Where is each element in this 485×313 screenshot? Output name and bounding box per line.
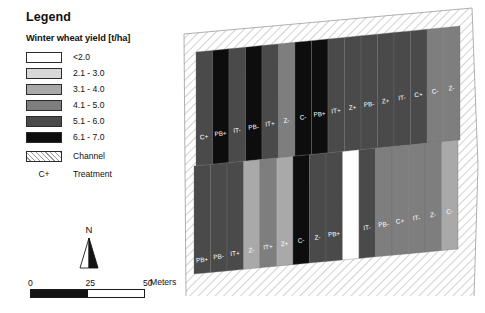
legend-label-5: 6.1 - 7.0 xyxy=(73,132,105,142)
legend-item-class-0: <2.0 xyxy=(26,50,186,64)
legend-swatch-5 xyxy=(26,132,62,143)
legend-item-class-3: 4.1 - 5.0 xyxy=(26,98,186,112)
legend-label-3: 4.1 - 5.0 xyxy=(73,100,105,110)
legend-label-1: 2.1 - 3.0 xyxy=(73,68,105,78)
bottom-row-label-13: IT- xyxy=(412,214,420,222)
top-row-label-9: Z+ xyxy=(348,103,357,111)
bottom-row-label-3: Z- xyxy=(248,246,255,254)
top-row-label-15: Z- xyxy=(448,84,455,92)
legend-swatch-2 xyxy=(26,84,62,95)
legend-title: Legend xyxy=(26,10,186,24)
top-row-label-7: PB+ xyxy=(313,110,326,118)
top-row-plot-3[interactable] xyxy=(246,46,263,162)
map-svg[interactable]: C+PB+IT-PB-IT+Z-C-PB+IT+Z+PB-Z+IT-C+C-Z-… xyxy=(182,6,482,296)
legend-class-list: <2.02.1 - 3.03.1 - 4.04.1 - 5.05.1 - 6.0… xyxy=(26,50,186,144)
top-row-plot-5[interactable] xyxy=(279,42,296,158)
top-row-plot-1[interactable] xyxy=(213,49,230,165)
bottom-row-label-7: Z- xyxy=(314,233,321,241)
top-row-label-6: C- xyxy=(299,113,306,121)
bottom-row-plot-9[interactable] xyxy=(343,150,360,260)
bottom-row-label-15: C- xyxy=(446,207,453,215)
bottom-row-plot-12[interactable] xyxy=(392,145,409,255)
bottom-row-label-6: C- xyxy=(297,236,304,244)
top-row-label-13: C+ xyxy=(414,90,423,98)
top-row-label-5: Z- xyxy=(283,117,290,125)
top-row-plot-8[interactable] xyxy=(328,37,345,153)
top-row-label-10: PB- xyxy=(363,100,374,108)
legend-label-0: <2.0 xyxy=(73,52,90,62)
top-row-plot-14[interactable] xyxy=(427,28,444,144)
bottom-row-plot-8[interactable] xyxy=(326,151,343,261)
top-row-plot-6[interactable] xyxy=(295,41,312,157)
scale-bar: 02550 Meters xyxy=(30,278,180,298)
legend-item-channel: Channel xyxy=(26,149,186,163)
top-row-plot-9[interactable] xyxy=(345,36,362,152)
bottom-row-label-10: IT- xyxy=(363,223,371,231)
north-arrow-label: N xyxy=(72,224,106,235)
legend-swatch-4 xyxy=(26,116,62,127)
legend-item-treatment: C+ Treatment xyxy=(26,169,186,179)
channel-hatch-swatch xyxy=(26,151,62,162)
map-figure: Legend Winter wheat yield [t/ha] <2.02.1… xyxy=(0,0,485,313)
scale-bar-units: Meters xyxy=(150,277,176,287)
top-row-label-11: Z+ xyxy=(381,97,390,105)
top-row-plot-7[interactable] xyxy=(312,39,329,155)
scale-tick-25: 25 xyxy=(86,278,96,288)
top-row-label-4: IT+ xyxy=(265,120,275,128)
legend-label-2: 3.1 - 4.0 xyxy=(73,84,105,94)
bottom-row-label-8: PB+ xyxy=(328,230,341,238)
top-row-label-2: IT- xyxy=(233,126,241,134)
legend-item-channel-label: Channel xyxy=(73,151,105,161)
bottom-row-label-9: C+ xyxy=(346,227,355,235)
legend-subtitle: Winter wheat yield [t/ha] xyxy=(26,33,186,43)
top-row-plot-12[interactable] xyxy=(394,31,411,147)
bottom-row-label-14: Z- xyxy=(430,211,437,219)
bottom-row-plot-5[interactable] xyxy=(277,156,294,266)
scale-tick-0: 0 xyxy=(28,278,33,288)
top-row-plot-11[interactable] xyxy=(378,33,395,149)
legend-panel: Legend Winter wheat yield [t/ha] <2.02.1… xyxy=(26,10,186,179)
top-row-label-0: C+ xyxy=(200,133,209,141)
scale-bar-track xyxy=(30,289,145,298)
bottom-row-plot-14[interactable] xyxy=(425,142,442,253)
top-row-plot-13[interactable] xyxy=(411,29,428,145)
top-row-plot-2[interactable] xyxy=(229,47,246,163)
bottom-row-plot-11[interactable] xyxy=(376,147,393,257)
legend-item-class-4: 5.1 - 6.0 xyxy=(26,114,186,128)
top-row-label-12: IT- xyxy=(398,94,406,102)
north-arrow-glyph xyxy=(72,237,106,270)
north-arrow: N xyxy=(72,226,106,270)
top-row-label-1: PB+ xyxy=(214,129,227,137)
legend-item-class-1: 2.1 - 3.0 xyxy=(26,66,186,80)
bottom-row-label-2: IT+ xyxy=(230,249,240,257)
legend-treatment-code: C+ xyxy=(26,169,62,179)
top-row-plot-4[interactable] xyxy=(262,44,279,160)
bottom-row-label-1: PB- xyxy=(213,252,224,260)
bottom-row-label-4: IT+ xyxy=(263,243,273,251)
legend-label-4: 5.1 - 6.0 xyxy=(73,116,105,126)
bottom-row-plot-15[interactable] xyxy=(442,140,459,251)
top-row-label-3: PB- xyxy=(248,123,259,131)
bottom-row-label-0: PB+ xyxy=(196,255,209,263)
legend-item-class-5: 6.1 - 7.0 xyxy=(26,130,186,144)
legend-item-treatment-label: Treatment xyxy=(73,169,112,179)
legend-swatch-1 xyxy=(26,68,62,79)
map-canvas[interactable]: C+PB+IT-PB-IT+Z-C-PB+IT+Z+PB-Z+IT-C+C-Z-… xyxy=(182,6,482,296)
top-row-plot-0[interactable] xyxy=(196,50,213,166)
legend-item-class-2: 3.1 - 4.0 xyxy=(26,82,186,96)
scale-segment-1 xyxy=(88,290,145,297)
legend-swatch-0 xyxy=(26,52,62,63)
bottom-row-plot-7[interactable] xyxy=(310,153,327,263)
top-row-plot-10[interactable] xyxy=(361,34,378,150)
bottom-row-label-5: Z+ xyxy=(280,240,289,248)
legend-swatch-3 xyxy=(26,100,62,111)
bottom-row-plot-10[interactable] xyxy=(359,148,376,258)
top-row-label-8: IT+ xyxy=(331,107,341,115)
bottom-row-plot-4[interactable] xyxy=(260,158,277,268)
bottom-row-label-11: PB- xyxy=(378,220,389,228)
scale-segment-0 xyxy=(31,290,88,297)
bottom-row-label-12: C+ xyxy=(396,217,405,225)
bottom-row-plot-6[interactable] xyxy=(293,155,310,265)
bottom-row-plot-13[interactable] xyxy=(409,143,426,253)
top-row-label-14: C- xyxy=(431,87,438,95)
